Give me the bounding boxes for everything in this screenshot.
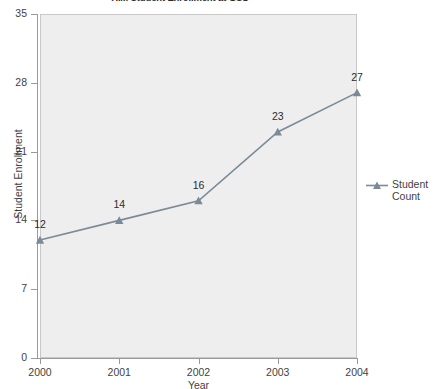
legend-label: Student Count	[392, 178, 436, 202]
legend-label-line2: Count	[392, 190, 436, 202]
legend-label-line1: Student	[392, 178, 436, 190]
data-point-label: 16	[179, 179, 219, 191]
series-line-student-count	[40, 93, 357, 240]
data-point-label: 14	[99, 198, 139, 210]
data-point-label: 12	[20, 218, 60, 230]
legend-marker-icon	[366, 181, 388, 190]
legend: Student Count	[366, 178, 436, 202]
data-point-label: 23	[258, 110, 298, 122]
data-point-label: 27	[337, 71, 377, 83]
series-markers	[36, 88, 361, 243]
data-point-marker	[353, 88, 361, 96]
data-point-marker	[274, 128, 282, 136]
